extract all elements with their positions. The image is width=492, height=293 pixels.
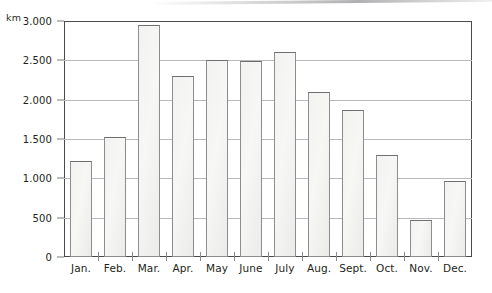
y-axis-unit-label: km (6, 12, 21, 23)
x-axis-tick-label: Dec. (443, 262, 467, 274)
y-axis-tick-label: 1.500 (23, 134, 52, 145)
plot-area-frame (64, 21, 472, 257)
y-axis-tick-mark (57, 178, 64, 179)
bar-chart: km 05001.0001.5002.0002.5003.000 Jan.Feb… (0, 0, 492, 293)
x-axis-tick-label: Oct. (376, 262, 398, 274)
x-axis-tick-label: June (239, 262, 262, 274)
x-axis-tick-label: Jan. (71, 262, 91, 274)
y-axis-tick-mark (57, 139, 64, 140)
x-axis-tick-label: Nov. (409, 262, 432, 274)
x-axis-tick-label: Apr. (173, 262, 194, 274)
x-axis-tick-label: Aug. (307, 262, 331, 274)
y-axis-tick-mark (57, 21, 64, 22)
x-axis-tick-label: Feb. (104, 262, 126, 274)
x-axis-tick-label: July (275, 262, 294, 274)
y-axis-tick-mark (57, 60, 64, 61)
y-axis-tick-mark (57, 99, 64, 100)
x-axis-labels: Jan.Feb.Mar.Apr.MayJuneJulyAug.Sept.Oct.… (64, 262, 472, 288)
y-axis-tick-label: 2.000 (23, 94, 52, 105)
x-axis-tick-label: May (206, 262, 228, 274)
scan-artifact-line (150, 0, 492, 5)
y-axis-tick-mark (57, 257, 64, 258)
y-axis-tick-label: 2.500 (23, 55, 52, 66)
y-axis-tick-label: 1.000 (23, 173, 52, 184)
y-axis-tick-label: 3.000 (23, 16, 52, 27)
x-axis-tick-label: Mar. (138, 262, 161, 274)
y-axis-tick-label: 500 (33, 212, 52, 223)
y-axis-tick-mark (57, 217, 64, 218)
y-axis: 05001.0001.5002.0002.5003.000 (0, 0, 64, 293)
y-axis-tick-label: 0 (46, 252, 52, 263)
x-axis-tick-label: Sept. (339, 262, 367, 274)
